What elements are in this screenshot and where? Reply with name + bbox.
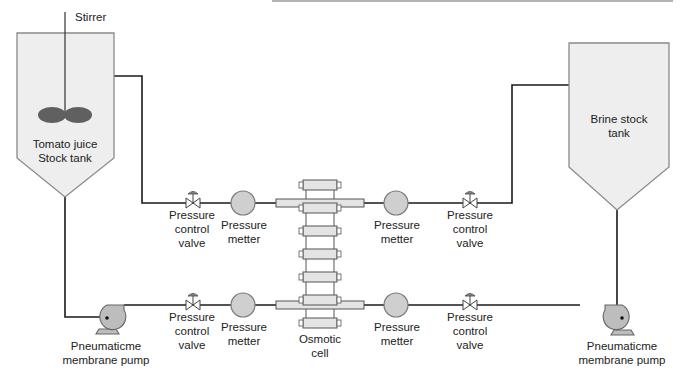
- pressure-meter-bottom-left[interactable]: [231, 293, 255, 317]
- pressure-control-valve-bottom-right[interactable]: [463, 294, 477, 311]
- pump-label-left: Pneumaticme membrane pump: [63, 340, 150, 366]
- tomato-tank-label-line1: Tomato juice: [33, 138, 98, 150]
- valve-label-bottom-left: Pressure control valve: [169, 311, 215, 351]
- pipe-top-left: [114, 76, 284, 203]
- svg-text:membrane pump: membrane pump: [579, 354, 666, 366]
- svg-text:Pressure: Pressure: [221, 321, 267, 333]
- osmotic-cell-label-line2: cell: [311, 347, 328, 359]
- osmotic-cell-label-line1: Osmotic: [299, 333, 341, 345]
- svg-text:Pressure: Pressure: [221, 219, 267, 231]
- brine-tank-label-line1: Brine stock: [591, 113, 648, 125]
- svg-text:valve: valve: [457, 237, 484, 249]
- svg-text:Pressure: Pressure: [447, 311, 493, 323]
- svg-text:Pressure: Pressure: [169, 311, 215, 323]
- meter-label-top-right: Pressure metter: [374, 219, 420, 245]
- tomato-juice-stock-tank: Stirrer Tomato juice Stock tank: [17, 11, 114, 197]
- osmotic-cell[interactable]: Osmotic cell: [276, 180, 364, 359]
- svg-text:control: control: [453, 223, 488, 235]
- svg-text:control: control: [175, 223, 210, 235]
- pressure-meter-top-right[interactable]: [384, 191, 408, 215]
- svg-text:Pressure: Pressure: [169, 209, 215, 221]
- svg-text:Pressure: Pressure: [374, 321, 420, 333]
- svg-text:metter: metter: [228, 233, 261, 245]
- svg-text:control: control: [175, 325, 210, 337]
- pipework: [65, 76, 622, 318]
- pipe-top-right: [360, 85, 569, 203]
- meter-label-bottom-right: Pressure metter: [374, 321, 420, 347]
- svg-text:Pressure: Pressure: [447, 209, 493, 221]
- pressure-control-valve-top-right[interactable]: [463, 192, 477, 209]
- brine-stock-tank: Brine stock tank: [569, 43, 669, 210]
- svg-text:Pressure: Pressure: [374, 219, 420, 231]
- svg-text:valve: valve: [179, 237, 206, 249]
- brine-tank-label-line2: tank: [608, 127, 630, 139]
- pressure-meter-bottom-right[interactable]: [384, 293, 408, 317]
- pneumatic-membrane-pump-right[interactable]: [603, 305, 634, 335]
- pipe-bottom-left-feed: [65, 197, 106, 317]
- osmotic-process-diagram: Stirrer Tomato juice Stock tank Brine st…: [0, 0, 683, 381]
- valve-label-top-left: Pressure control valve: [169, 209, 215, 249]
- tomato-tank-label-line2: Stock tank: [38, 152, 92, 164]
- valve-label-top-right: Pressure control valve: [447, 209, 493, 249]
- stirrer-blade-left: [38, 107, 66, 123]
- pressure-control-valve-top-left[interactable]: [186, 192, 200, 209]
- svg-text:Pneumaticme: Pneumaticme: [71, 340, 141, 352]
- stirrer-blade-right: [64, 107, 92, 123]
- stirrer-label: Stirrer: [75, 11, 106, 23]
- svg-text:metter: metter: [228, 335, 261, 347]
- svg-text:control: control: [453, 325, 488, 337]
- meter-label-bottom-left: Pressure metter: [221, 321, 267, 347]
- valve-label-bottom-right: Pressure control valve: [447, 311, 493, 351]
- svg-text:valve: valve: [179, 339, 206, 351]
- svg-text:metter: metter: [381, 335, 414, 347]
- pressure-control-valve-bottom-left[interactable]: [186, 294, 200, 311]
- pressure-meter-top-left[interactable]: [231, 191, 255, 215]
- svg-text:Pneumaticme: Pneumaticme: [587, 340, 657, 352]
- pneumatic-membrane-pump-left[interactable]: [96, 305, 126, 334]
- meter-label-top-left: Pressure metter: [221, 219, 267, 245]
- pump-label-right: Pneumaticme membrane pump: [579, 340, 666, 366]
- svg-text:membrane pump: membrane pump: [63, 354, 150, 366]
- svg-text:valve: valve: [457, 339, 484, 351]
- svg-text:metter: metter: [381, 233, 414, 245]
- pipe-bottom-right-feed: [617, 210, 622, 318]
